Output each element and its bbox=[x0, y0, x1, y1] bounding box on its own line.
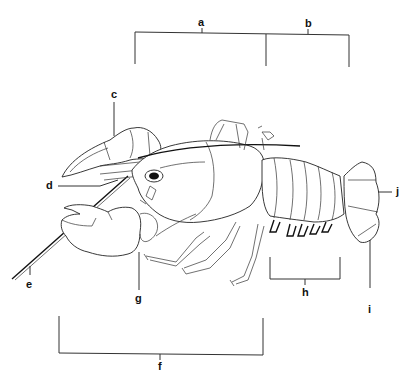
label-e: e bbox=[26, 279, 32, 290]
label-j: j bbox=[396, 186, 399, 197]
abdomen bbox=[262, 158, 344, 222]
walking-legs bbox=[144, 214, 264, 286]
label-a: a bbox=[198, 17, 204, 28]
swimmerets bbox=[270, 220, 332, 236]
label-g: g bbox=[135, 293, 142, 304]
lower-claw bbox=[61, 205, 141, 256]
label-h: h bbox=[302, 287, 309, 298]
crayfish-drawing bbox=[0, 0, 409, 391]
leader-d bbox=[58, 180, 118, 186]
bracket-ab bbox=[135, 28, 349, 67]
tail-fan bbox=[344, 162, 379, 243]
label-f: f bbox=[158, 361, 162, 372]
bracket-f bbox=[59, 316, 263, 360]
label-b: b bbox=[305, 18, 312, 29]
label-d: d bbox=[46, 180, 53, 191]
bracket-h bbox=[270, 257, 340, 285]
crayfish-diagram: a b c d e f g h i j bbox=[0, 0, 409, 391]
label-c: c bbox=[111, 89, 117, 100]
label-i: i bbox=[368, 304, 371, 315]
eye bbox=[145, 170, 163, 182]
